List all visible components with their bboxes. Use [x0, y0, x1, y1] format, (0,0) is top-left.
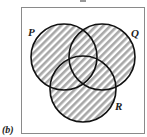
venn-diagram — [0, 0, 147, 137]
set-label-p: P — [28, 27, 35, 38]
panel-label: (b) — [2, 125, 14, 135]
set-label-r: R — [115, 101, 122, 112]
set-label-q: Q — [131, 28, 139, 39]
